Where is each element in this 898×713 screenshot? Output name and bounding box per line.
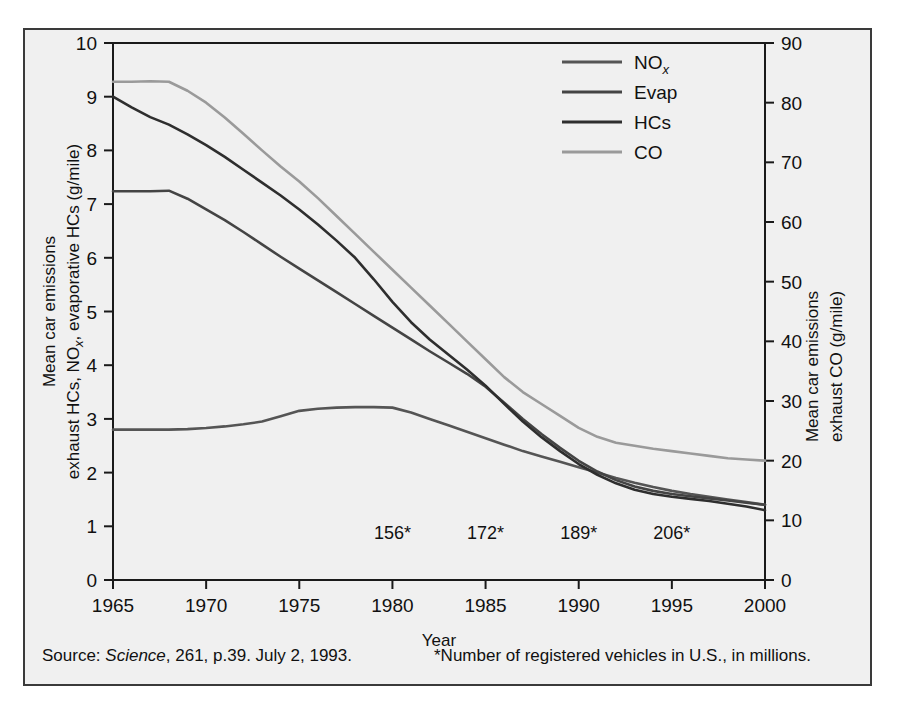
vehicle-count-annotation: 206* bbox=[653, 523, 690, 543]
legend-label-nox: NOx bbox=[634, 52, 670, 77]
y-tick-label-right: 90 bbox=[781, 33, 802, 54]
y-tick-label-left: 7 bbox=[86, 194, 97, 215]
series-line-co bbox=[113, 81, 765, 460]
y-tick-label-left: 1 bbox=[86, 516, 97, 537]
vehicle-count-annotation: 189* bbox=[560, 523, 597, 543]
legend-label-evap: Evap bbox=[634, 82, 677, 103]
y-tick-label-left: 8 bbox=[86, 140, 97, 161]
vehicle-count-annotation: 156* bbox=[374, 523, 411, 543]
x-tick-label: 1980 bbox=[371, 595, 413, 616]
vehicle-count-annotation: 172* bbox=[467, 523, 504, 543]
y-tick-label-left: 10 bbox=[76, 33, 97, 54]
y-tick-label-right: 80 bbox=[781, 93, 802, 114]
y-axis-title-right-line1: Mean car emissions bbox=[803, 291, 822, 442]
footnote-registered-vehicles: *Number of registered vehicles in U.S., … bbox=[434, 646, 811, 665]
x-tick-label: 1990 bbox=[558, 595, 600, 616]
x-tick-label: 1975 bbox=[278, 595, 320, 616]
x-tick-label: 1985 bbox=[464, 595, 506, 616]
y-tick-label-right: 50 bbox=[781, 272, 802, 293]
figure-page: 1965197019751980198519901995200001234567… bbox=[0, 0, 898, 713]
y-tick-label-right: 40 bbox=[781, 331, 802, 352]
x-tick-label: 1995 bbox=[651, 595, 693, 616]
y-tick-label-left: 6 bbox=[86, 248, 97, 269]
series-line-hcs bbox=[113, 97, 765, 510]
x-tick-label: 1965 bbox=[92, 595, 134, 616]
y-tick-label-left: 9 bbox=[86, 87, 97, 108]
y-tick-label-left: 3 bbox=[86, 409, 97, 430]
legend-label-co: CO bbox=[634, 142, 663, 163]
y-tick-label-right: 0 bbox=[781, 570, 792, 591]
source-citation: Source: Science, 261, p.39. July 2, 1993… bbox=[42, 646, 352, 665]
y-tick-label-right: 60 bbox=[781, 212, 802, 233]
legend-label-hcs: HCs bbox=[634, 112, 671, 133]
emissions-line-chart: 1965197019751980198519901995200001234567… bbox=[0, 0, 898, 713]
series-line-nox bbox=[113, 407, 765, 505]
y-tick-label-right: 20 bbox=[781, 451, 802, 472]
x-tick-label: 2000 bbox=[744, 595, 786, 616]
y-tick-label-left: 4 bbox=[86, 355, 97, 376]
y-tick-label-left: 0 bbox=[86, 570, 97, 591]
y-tick-label-right: 70 bbox=[781, 152, 802, 173]
x-tick-label: 1970 bbox=[185, 595, 227, 616]
y-tick-label-left: 5 bbox=[86, 302, 97, 323]
y-axis-title-left-line2: exhaust HCs, NOx, evaporative HCs (g/mil… bbox=[64, 144, 86, 479]
y-axis-title-right-line2: exhaust CO (g/mile) bbox=[827, 291, 846, 442]
y-tick-label-right: 10 bbox=[781, 510, 802, 531]
y-axis-title-left-line1: Mean car emissions bbox=[40, 236, 59, 387]
y-tick-label-right: 30 bbox=[781, 391, 802, 412]
y-tick-label-left: 2 bbox=[86, 463, 97, 484]
